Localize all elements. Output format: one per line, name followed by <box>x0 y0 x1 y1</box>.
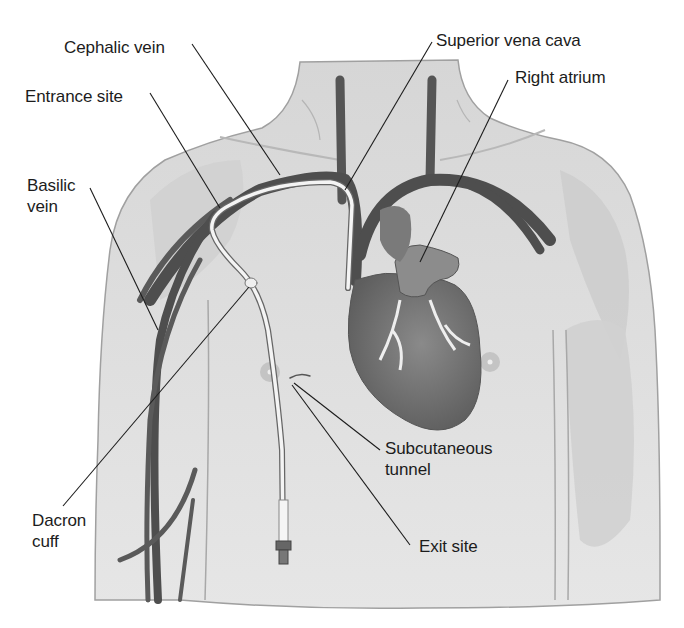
label-cephalic-vein: Cephalic vein <box>64 37 165 58</box>
label-superior-vena-cava: Superior vena cava <box>436 30 581 51</box>
catheter-anatomy-diagram: Cephalic vein Entrance site Basilic vein… <box>0 0 684 628</box>
label-exit-site: Exit site <box>419 536 478 557</box>
label-subcutaneous-tunnel-line1: Subcutaneous <box>385 438 493 459</box>
label-subcutaneous-tunnel: Subcutaneous tunnel <box>385 438 493 480</box>
label-dacron-cuff: Dacron cuff <box>32 510 86 552</box>
label-dacron-cuff-line1: Dacron <box>32 510 86 531</box>
label-basilic-vein-line2: vein <box>27 196 75 217</box>
label-dacron-cuff-line2: cuff <box>32 531 86 552</box>
label-right-atrium: Right atrium <box>515 67 605 88</box>
label-subcutaneous-tunnel-line2: tunnel <box>385 459 493 480</box>
label-basilic-vein-line1: Basilic <box>27 175 75 196</box>
label-basilic-vein: Basilic vein <box>27 175 75 217</box>
label-entrance-site: Entrance site <box>25 86 123 107</box>
